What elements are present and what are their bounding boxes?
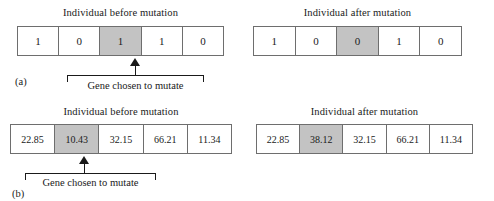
gene-cell: 66.21: [387, 125, 430, 153]
panel-label-a: (a): [15, 76, 27, 88]
gene-cell-mutated: 38.12: [300, 125, 343, 153]
gene-cell: 11.34: [430, 125, 472, 153]
mutation-arrow-icon: [130, 58, 141, 76]
gene-cell: 1: [18, 27, 59, 55]
caption-before-mutation-binary: Individual before mutation: [17, 7, 224, 19]
panel-label-b: (b): [12, 188, 24, 200]
gene-cell: 0: [59, 27, 100, 55]
chromosome-after-real: 22.85 38.12 32.15 66.21 11.34: [256, 124, 473, 154]
gene-cell: 1: [379, 27, 421, 55]
gene-cell: 32.15: [343, 125, 386, 153]
mutation-figure: Individual before mutation 1 0 1 1 0 Gen…: [0, 0, 494, 201]
chromosome-before-binary: 1 0 1 1 0: [17, 26, 224, 56]
gene-cell: 0: [296, 27, 338, 55]
gene-cell: 11.34: [188, 125, 231, 153]
bracket-label-real: Gene chosen to mutate: [25, 177, 156, 189]
gene-cell: 32.15: [99, 125, 143, 153]
gene-cell: 22.85: [257, 125, 300, 153]
gene-cell: 0: [183, 27, 223, 55]
gene-cell-mutated: 10.43: [55, 125, 99, 153]
gene-cell: 1: [254, 27, 296, 55]
gene-cell: 22.85: [11, 125, 55, 153]
gene-cell: 1: [142, 27, 183, 55]
gene-cell-mutated: 1: [100, 27, 141, 55]
caption-before-mutation-real: Individual before mutation: [10, 106, 232, 118]
caption-after-mutation-real: Individual after mutation: [256, 106, 473, 118]
mutation-arrow-icon: [79, 156, 90, 174]
panel-a-binary-mutation: Individual before mutation 1 0 1 1 0 Gen…: [0, 0, 494, 100]
gene-cell: 0: [420, 27, 461, 55]
gene-cell-mutated: 0: [337, 27, 379, 55]
chromosome-before-real: 22.85 10.43 32.15 66.21 11.34: [10, 124, 232, 154]
bracket-label-binary: Gene chosen to mutate: [67, 80, 204, 92]
caption-after-mutation-binary: Individual after mutation: [253, 7, 462, 19]
gene-cell: 66.21: [144, 125, 188, 153]
panel-b-real-mutation: Individual before mutation 22.85 10.43 3…: [0, 100, 494, 201]
chromosome-after-binary: 1 0 0 1 0: [253, 26, 462, 56]
